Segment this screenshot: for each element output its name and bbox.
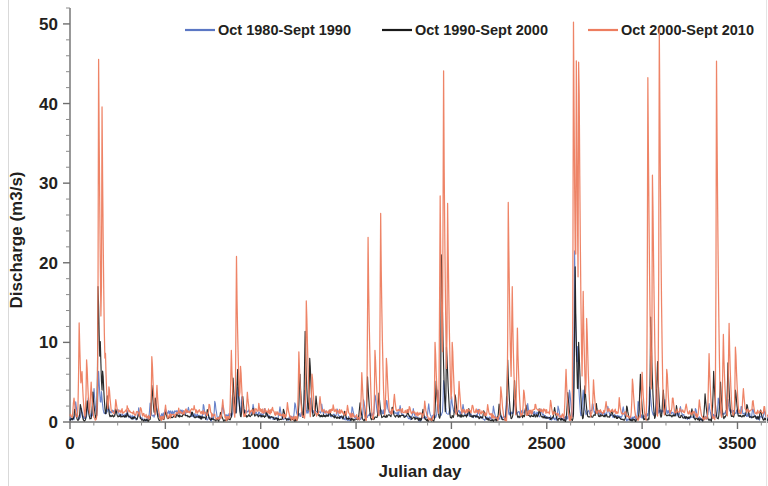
y-tick-label: 50: [39, 15, 58, 34]
legend-label-0: Oct 1980-Sept 1990: [218, 22, 351, 38]
legend-item-0: Oct 1980-Sept 1990: [185, 22, 351, 38]
series-line-2: [70, 22, 768, 421]
axis-frame: [70, 8, 768, 422]
y-tick-label: 20: [39, 254, 58, 273]
y-axis-title: Discharge (m3/s): [7, 172, 26, 309]
x-tick-label: 1500: [337, 434, 375, 453]
x-tick-label: 500: [151, 434, 179, 453]
x-tick-label: 0: [65, 434, 74, 453]
x-tick-label: 3000: [623, 434, 661, 453]
y-tick-label: 10: [39, 333, 58, 352]
x-tick-label: 2000: [433, 434, 471, 453]
y-tick-label: 0: [49, 413, 58, 432]
legend-label-2: Oct 2000-Sept 2010: [621, 22, 754, 38]
x-tick-label: 1000: [242, 434, 280, 453]
legend-item-2: Oct 2000-Sept 2010: [588, 22, 754, 38]
x-axis-title: Julian day: [378, 462, 462, 481]
discharge-line-chart: Oct 1980-Sept 1990Oct 1990-Sept 2000Oct …: [0, 0, 768, 486]
y-tick-label: 30: [39, 174, 58, 193]
x-tick-label: 2500: [528, 434, 566, 453]
y-tick-label: 40: [39, 95, 58, 114]
x-tick-label: 3500: [719, 434, 757, 453]
chart-legend: Oct 1980-Sept 1990Oct 1990-Sept 2000Oct …: [185, 22, 754, 38]
legend-label-1: Oct 1990-Sept 2000: [415, 22, 548, 38]
legend-item-1: Oct 1990-Sept 2000: [382, 22, 548, 38]
hydrograph-figure: Oct 1980-Sept 1990Oct 1990-Sept 2000Oct …: [0, 0, 768, 486]
chart-series: [70, 22, 768, 421]
